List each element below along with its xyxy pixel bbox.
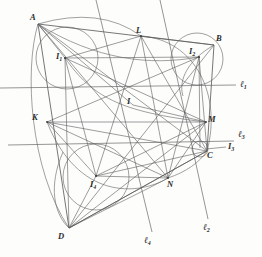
chord-l-i1 bbox=[65, 36, 141, 58]
label-point-i: I bbox=[127, 97, 130, 106]
chord-i1-i2 bbox=[65, 57, 199, 58]
label-point-m: M bbox=[208, 115, 216, 124]
chord-k-n bbox=[47, 122, 168, 178]
point-i1 bbox=[64, 57, 66, 59]
label-vertex-a: A bbox=[30, 13, 36, 22]
geometry-figure: A B C D I1 I2 I3 I4 K L M N I ℓ1 ℓ2 ℓ3 ℓ… bbox=[0, 0, 262, 257]
label-point-k: K bbox=[32, 113, 38, 122]
point-i4 bbox=[95, 175, 97, 177]
label-line-l3: ℓ3 bbox=[238, 130, 245, 139]
arc-l-c bbox=[141, 36, 211, 151]
arc-left-a-k-d bbox=[31, 24, 69, 228]
label-point-n: N bbox=[167, 180, 173, 189]
chord-i4-c bbox=[96, 151, 207, 176]
chord-k-c bbox=[47, 122, 207, 151]
leader-line-i3 bbox=[206, 147, 226, 149]
label-point-l: L bbox=[136, 26, 141, 35]
label-incenter-i3: I3 bbox=[228, 142, 234, 151]
chord-d-m bbox=[69, 122, 206, 228]
point-k bbox=[46, 121, 48, 123]
chord-a-i bbox=[38, 24, 133, 105]
point-m bbox=[205, 121, 207, 123]
diagram-canvas bbox=[0, 0, 262, 257]
chord-l-b bbox=[141, 36, 214, 45]
chord-i2-i3 bbox=[199, 57, 200, 148]
arc-k-n bbox=[47, 122, 168, 189]
label-line-l4: ℓ4 bbox=[144, 236, 151, 245]
chord-d-c bbox=[69, 151, 207, 228]
side-da bbox=[38, 24, 69, 228]
diagonal-bd bbox=[69, 45, 214, 228]
chord-i2-c bbox=[199, 57, 207, 151]
label-vertex-c: C bbox=[207, 151, 213, 160]
arc-d-n bbox=[69, 178, 168, 228]
line-l1 bbox=[0, 85, 236, 88]
chord-i-m bbox=[133, 105, 206, 122]
chord-i4-n bbox=[96, 176, 168, 178]
label-line-l1: ℓ1 bbox=[240, 80, 247, 89]
label-line-l2: ℓ2 bbox=[203, 223, 210, 232]
label-vertex-d: D bbox=[58, 232, 64, 241]
label-vertex-b: B bbox=[216, 34, 222, 43]
point-i2 bbox=[198, 56, 200, 58]
chord-l-c bbox=[141, 36, 207, 151]
label-incenter-i1: I1 bbox=[56, 52, 62, 61]
chord-i1-d bbox=[65, 58, 69, 228]
label-incenter-i4: I4 bbox=[90, 180, 96, 189]
chord-i1-i4 bbox=[65, 58, 96, 176]
label-incenter-i2: I2 bbox=[189, 47, 195, 56]
point-l bbox=[140, 35, 142, 37]
